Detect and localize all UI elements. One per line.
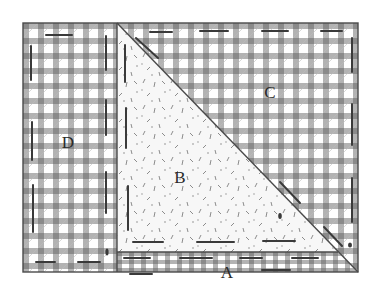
quilt-block-diagram [0,0,378,307]
piece-a [117,252,358,272]
piece-d [23,23,117,272]
